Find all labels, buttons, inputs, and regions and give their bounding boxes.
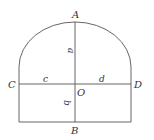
label-C: C (8, 79, 16, 90)
label-d: d (99, 74, 105, 84)
label-b: b (62, 100, 72, 106)
label-A: A (71, 9, 79, 20)
geometry-diagram: A B C D O a b c d (0, 0, 154, 140)
label-B: B (70, 125, 78, 136)
label-c: c (43, 74, 48, 84)
label-a: a (66, 48, 76, 53)
label-O: O (77, 87, 85, 98)
label-D: D (133, 79, 142, 90)
